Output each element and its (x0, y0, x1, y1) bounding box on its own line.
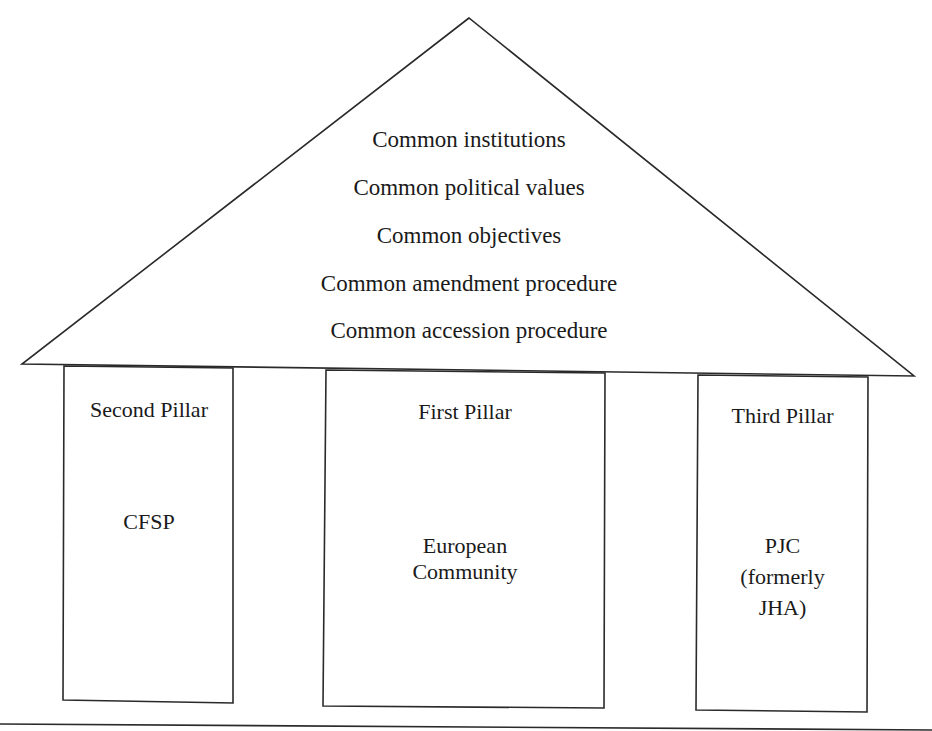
first-pillar-body: European Community (326, 533, 604, 585)
roof-item-common-accession-procedure: Common accession procedure (269, 319, 669, 342)
third-pillar-body-line: JHA) (697, 592, 868, 623)
ground-line (0, 724, 932, 730)
second-pillar-body-line: CFSP (64, 508, 234, 536)
roof-item-common-objectives: Common objectives (269, 224, 669, 247)
second-pillar-body: CFSP (64, 508, 234, 536)
roof-item-common-amendment-procedure: Common amendment procedure (269, 272, 669, 295)
third-pillar-body-line: (formerly (697, 561, 868, 592)
third-pillar-title: Third Pillar (697, 402, 868, 430)
roof-item-common-political-values: Common political values (269, 176, 669, 199)
first-pillar-body-line: European (326, 533, 604, 559)
roof-item-common-institutions: Common institutions (269, 128, 669, 151)
first-pillar-body-line: Community (326, 559, 604, 585)
third-pillar-body-line: PJC (697, 530, 868, 561)
second-pillar-title: Second Pillar (64, 396, 234, 424)
third-pillar-body: PJC (formerly JHA) (697, 530, 868, 623)
first-pillar-title: First Pillar (326, 398, 604, 426)
